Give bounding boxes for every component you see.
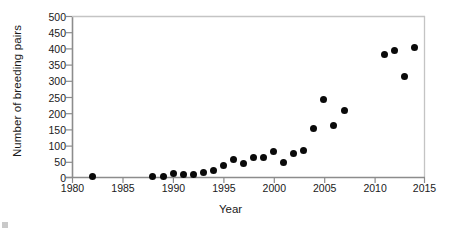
data-point [230,156,237,163]
scatter-chart: 500 450 400 350 300 250 200 150 100 50 0… [0,0,461,231]
chart-axes [0,0,461,231]
data-point [240,160,247,167]
x-tick-label: 1980 [53,182,93,194]
y-tick-label: 450 [36,27,66,39]
x-tick-label: 2015 [405,182,445,194]
data-point [180,171,187,178]
x-tick-label: 1990 [153,182,193,194]
data-point [341,107,348,114]
x-tick-label: 2010 [355,182,395,194]
y-tick-label: 150 [36,124,66,136]
y-tick-label: 200 [36,108,66,120]
x-tick-label: 1995 [204,182,244,194]
x-axis-title: Year [0,203,461,215]
y-tick-label: 300 [36,75,66,87]
x-tick-label: 2005 [305,182,345,194]
y-tick-label: 100 [36,140,66,152]
y-tick-label: 250 [36,92,66,104]
data-point [280,159,287,166]
data-point [160,173,167,180]
data-point [300,147,307,154]
y-axis-tick-labels: 500 450 400 350 300 250 200 150 100 50 0 [36,0,66,231]
data-point [381,51,388,58]
y-tick-label: 500 [36,11,66,23]
corner-artifact [2,222,8,228]
y-tick-label: 50 [36,156,66,168]
data-point [190,171,197,178]
x-tick-label: 2000 [254,182,294,194]
y-axis-title: Number of breeding pairs [11,11,23,171]
data-point [200,169,207,176]
data-point [210,167,217,174]
y-tick-label: 400 [36,43,66,55]
data-point [250,154,257,161]
y-tick-label: 350 [36,59,66,71]
x-tick-label: 1985 [103,182,143,194]
y-axis-ticks [66,17,72,178]
